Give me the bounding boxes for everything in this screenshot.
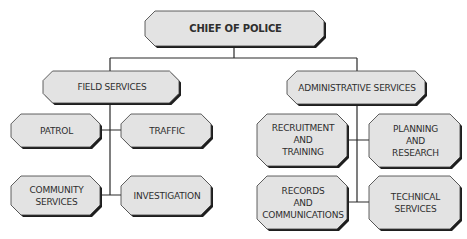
node-label: RESEARCH: [392, 148, 439, 158]
node-label: TECHNICAL: [390, 192, 440, 202]
org-node-patrol: PATROL: [11, 114, 102, 149]
node-box: [369, 176, 460, 229]
node-label: RECRUITMENT: [272, 123, 335, 133]
node-label: PATROL: [40, 126, 73, 136]
node-label: ADMINISTRATIVE SERVICES: [298, 83, 416, 93]
connector-line: [347, 104, 369, 202]
node-label: AND: [293, 198, 312, 208]
node-label: TRAINING: [281, 147, 324, 157]
org-node-recruitment: RECRUITMENTANDTRAINING: [257, 114, 349, 168]
node-label: INVESTIGATION: [134, 191, 201, 201]
node-label: AND: [406, 136, 425, 146]
node-label: TRAFFIC: [148, 126, 184, 136]
org-node-field: FIELD SERVICES: [43, 71, 181, 105]
org-chart: CHIEF OF POLICEFIELD SERVICESADMINISTRAT…: [0, 0, 467, 239]
node-label: RECORDS: [282, 186, 325, 196]
org-nodes: CHIEF OF POLICEFIELD SERVICESADMINISTRAT…: [11, 11, 462, 231]
org-node-planning: PLANNINGANDRESEARCH: [369, 114, 462, 169]
node-label: COMMUNICATIONS: [262, 210, 344, 220]
node-label: SERVICES: [394, 204, 437, 214]
org-node-records: RECORDSANDCOMMUNICATIONS: [257, 176, 349, 231]
org-node-technical: TECHNICALSERVICES: [369, 176, 462, 231]
node-label: PLANNING: [393, 124, 438, 134]
connector-line: [110, 46, 357, 71]
org-node-investigation: INVESTIGATION: [121, 176, 213, 217]
connector-line: [100, 103, 121, 195]
org-node-chief: CHIEF OF POLICE: [145, 11, 326, 48]
node-label: FIELD SERVICES: [77, 82, 147, 92]
node-label: SERVICES: [35, 197, 78, 207]
node-label: CHIEF OF POLICE: [189, 23, 282, 34]
org-node-admin: ADMINISTRATIVE SERVICES: [287, 71, 427, 106]
org-node-traffic: TRAFFIC: [121, 114, 213, 149]
node-label: AND: [293, 135, 312, 145]
org-node-community: COMMUNITYSERVICES: [11, 176, 102, 217]
node-box: [11, 176, 100, 215]
node-label: COMMUNITY: [29, 185, 84, 195]
